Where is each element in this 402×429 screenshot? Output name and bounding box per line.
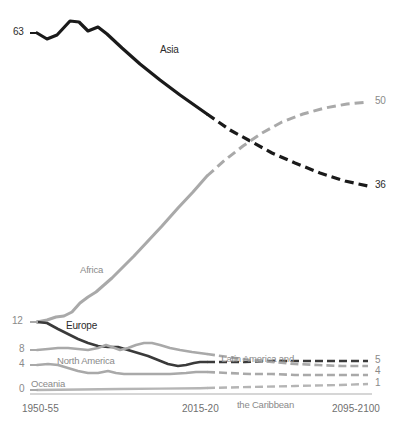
series-line-africa-solid	[37, 176, 207, 322]
series-line-asia-projection	[207, 114, 368, 186]
africa-end-value-50: 50	[375, 96, 386, 107]
asia-end-value-36: 36	[375, 180, 386, 191]
series-label-asia: Asia	[160, 45, 179, 56]
series-line-africa-projection	[207, 102, 368, 176]
series-label-north-america: North America	[57, 356, 115, 366]
x-axis-label-start: 1950-55	[22, 404, 59, 415]
latin-america-end-value-4: 4	[375, 366, 380, 377]
y-axis-label-4: 4	[19, 359, 24, 370]
asia-start-value-63: 63	[13, 27, 24, 38]
x-axis-label-middle: 2015-20	[182, 404, 219, 415]
series-label-latin-america-line1: Latin America and	[193, 354, 294, 365]
series-label-europe: Europe	[66, 321, 97, 332]
series-line-latin-america-solid	[37, 343, 207, 354]
y-axis-label-8: 8	[19, 344, 24, 355]
oceania-end-value-1: 1	[375, 378, 380, 389]
series-label-africa: Africa	[80, 265, 103, 275]
population-share-line-chart: 12 8 4 0 63 50 36 5 4 1 Asia Africa Euro…	[0, 0, 402, 429]
europe-end-value-5: 5	[375, 355, 380, 366]
series-label-oceania: Oceania	[31, 379, 65, 389]
x-axis-label-end: 2095-2100	[332, 404, 380, 415]
y-axis-label-0: 0	[19, 384, 24, 395]
series-line-asia-solid	[37, 21, 207, 114]
y-axis-label-12: 12	[12, 316, 23, 327]
